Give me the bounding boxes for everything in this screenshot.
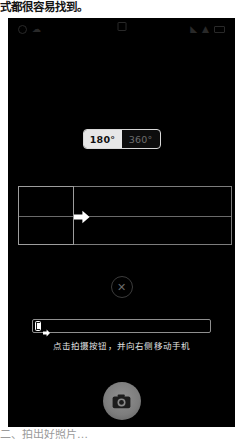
status-bar: ☁ ◣ ▲ <box>8 18 235 40</box>
panorama-start-box <box>18 186 74 245</box>
panorama-alignment-guide <box>18 186 232 245</box>
arrow-right-icon <box>43 322 50 330</box>
camera-badge-icon <box>117 22 126 31</box>
signal-icon: ◣ <box>190 25 197 34</box>
document-text-above: 式都很容易找到。 <box>0 0 235 16</box>
shutter-button[interactable] <box>103 382 141 420</box>
status-bar-center <box>117 22 126 31</box>
camera-icon <box>112 394 131 409</box>
close-button[interactable]: ✕ <box>111 276 133 298</box>
panorama-progress-bar[interactable] <box>32 319 211 333</box>
battery-icon <box>214 26 225 33</box>
toggle-option-360[interactable]: 360° <box>122 130 160 148</box>
toggle-option-180[interactable]: 180° <box>84 130 122 148</box>
status-bar-left: ☁ <box>18 25 41 34</box>
document-text-below: 二、拍出好照片… <box>0 429 235 439</box>
phone-icon <box>35 321 41 331</box>
phone-screenshot: ☁ ◣ ▲ 180° 360° ✕ <box>8 18 235 427</box>
panorama-angle-toggle[interactable]: 180° 360° <box>83 129 161 149</box>
arrow-right-icon <box>74 209 90 223</box>
status-bar-right: ◣ ▲ <box>190 25 225 34</box>
wifi-icon: ▲ <box>202 25 209 34</box>
progress-thumb[interactable] <box>35 321 50 331</box>
cloud-icon: ☁ <box>32 25 41 34</box>
instruction-text: 点击拍摄按钮，并向右侧移动手机 <box>8 340 235 352</box>
location-icon <box>18 25 27 34</box>
close-icon: ✕ <box>117 282 126 293</box>
